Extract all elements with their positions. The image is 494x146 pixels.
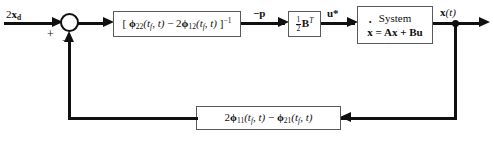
transpose-exponent: T [309,16,313,25]
feedback-gain-formula: 2ϕ11(tf, t) − ϕ21(tf, t) [225,111,313,126]
costate-signal-label: −p [253,8,265,19]
control-signal-label: u* [327,8,339,19]
arrowhead-into-summer-minus [64,31,74,42]
inverse-gain-block[interactable]: [ ϕ22(tf, t) − 2ϕ12(tf, t) ]−1 [113,11,241,37]
phi-22-symbol: ϕ [129,17,136,29]
phi-11-arg-rest: , t) [253,111,265,123]
costate-label-text: −p [253,7,265,19]
feedback-gain-block[interactable]: 2ϕ11(tf, t) − ϕ21(tf, t) [196,106,341,130]
gain-formula: 12BT [296,16,314,33]
phi-21-symbol: ϕ [277,111,284,123]
inverse-gain-formula: [ ϕ22(tf, t) − 2ϕ12(tf, t) ]−1 [123,17,232,32]
phi-22-arg-rest: , t) [152,17,164,29]
half-b-transpose-block[interactable]: 12BT [288,11,321,37]
formula-minus: − [167,17,173,29]
output-time-arg: (t) [446,6,456,18]
wire-feedback-left-segment [68,117,198,120]
wire-feedback-down [454,22,457,120]
wire-input-to-summer [4,22,54,25]
system-block-equation: x = Ax + Bu [367,26,422,38]
system-block[interactable]: System x = Ax + Bu [357,6,433,44]
wire-feedback-up [68,40,71,120]
arrowhead-into-feedback-block [340,112,351,122]
state-derivative-symbol: x [367,26,373,38]
input-signal-label: 2xd [6,9,21,21]
formula-open-bracket: [ [123,17,127,29]
wire-feedback-right-segment [340,117,456,120]
state-equation-rest: = Ax + Bu [373,26,423,38]
phi-12-arg-rest: , t) [205,17,217,29]
system-block-title: System [379,12,411,24]
block-diagram-canvas: 2xd + − [ ϕ22(tf, t) − 2ϕ12(tf, t) ]−1 −… [0,0,494,146]
phi-21-arg-rest: , t) [300,111,312,123]
phi-12-arg-t: (t [196,17,203,29]
output-signal-label: x(t) [440,7,456,18]
input-subscript: d [17,13,21,22]
phi-12-subscript: 12 [188,22,196,31]
arrowhead-output [479,17,490,27]
control-label-text: u* [327,7,339,19]
formula-exponent: −1 [223,16,231,25]
phi-11-symbol: ϕ [230,111,237,123]
one-half-fraction: 12 [296,16,302,33]
wire-summer-to-inverse-block [78,22,106,25]
fraction-denominator: 2 [296,25,302,33]
feedback-minus: − [268,111,274,123]
summing-junction [60,13,79,32]
phi-11-arg-t: (t [244,111,251,123]
summer-plus-sign: + [47,28,54,40]
